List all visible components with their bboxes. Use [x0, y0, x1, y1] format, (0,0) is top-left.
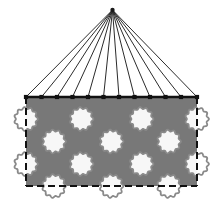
cable-anchor-node-3 — [55, 95, 59, 99]
figure-root: Cable-suspended perforated panel — [0, 0, 221, 208]
cable-anchor-node-5 — [86, 95, 90, 99]
cable-anchor-node-9 — [148, 95, 152, 99]
cable-anchor-node-1 — [24, 95, 28, 99]
suspended-perforated-panel-diagram: Cable-suspended perforated panel — [0, 0, 221, 208]
cable-anchor-node-12 — [195, 95, 199, 99]
cable-anchor-node-2 — [39, 95, 43, 99]
cable-anchor-node-7 — [117, 95, 121, 99]
cable-anchor-node-11 — [179, 95, 183, 99]
apex-suspension-point — [110, 8, 114, 12]
panel-group — [15, 97, 209, 198]
cable-anchor-node-6 — [101, 95, 105, 99]
cable-anchor-node-4 — [70, 95, 74, 99]
cable-anchor-node-8 — [132, 95, 136, 99]
cable-anchor-node-10 — [163, 95, 167, 99]
